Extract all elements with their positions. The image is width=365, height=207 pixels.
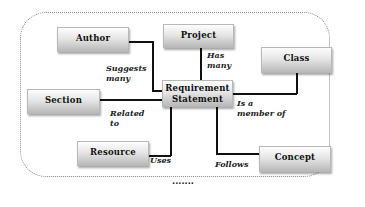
connector-class-h	[233, 93, 297, 95]
entity-concept: Concept	[259, 146, 331, 172]
center-label-line2: Statement	[172, 94, 223, 105]
entity-concept-label: Concept	[275, 152, 315, 162]
relation-class: Is a member of	[237, 98, 285, 118]
connector-concept-v	[216, 107, 218, 154]
entity-project-label: Project	[181, 30, 217, 40]
ellipsis-more: .......	[172, 176, 194, 186]
relation-concept: Follows	[215, 159, 248, 169]
entity-requirement-statement: Requirement Statement	[162, 80, 233, 107]
connector-resource-v	[170, 107, 172, 156]
entity-resource: Resource	[77, 141, 149, 166]
relation-project: Has many	[207, 50, 231, 70]
entity-section: Section	[27, 89, 100, 114]
connector-concept-h	[216, 153, 259, 155]
entity-author: Author	[57, 27, 129, 52]
entity-project: Project	[163, 24, 234, 48]
relation-section: Related to	[110, 108, 144, 128]
center-label-line1: Requirement	[165, 83, 229, 94]
entity-class-label: Class	[283, 53, 309, 63]
relation-resource: Uses	[150, 155, 171, 165]
connector-author-h2	[152, 90, 162, 92]
entity-class: Class	[261, 47, 332, 73]
connector-project	[200, 48, 202, 80]
connector-section	[100, 99, 162, 101]
connector-class-v	[296, 73, 298, 94]
connector-author-v	[152, 41, 154, 91]
entity-resource-label: Resource	[90, 147, 136, 157]
entity-author-label: Author	[76, 33, 110, 43]
relation-author: Suggests many	[106, 63, 147, 83]
connector-author	[129, 41, 153, 43]
entity-section-label: Section	[45, 95, 82, 105]
